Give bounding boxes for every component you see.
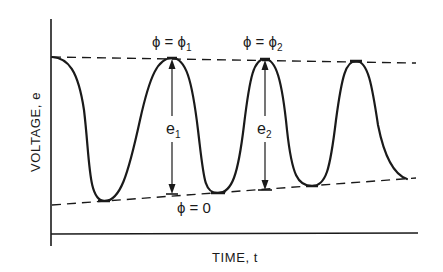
e2-label: e2 xyxy=(257,120,272,140)
e1-label: e1 xyxy=(166,120,181,140)
arrow-down-icon xyxy=(169,184,176,194)
phi-equals-phi2-label: ϕ = ϕ2 xyxy=(243,33,283,53)
voltage-waveform xyxy=(52,57,407,201)
arrow-up-icon xyxy=(169,59,176,69)
arrow-up-icon xyxy=(262,60,269,70)
e2-amplitude-marker: e2 xyxy=(257,60,272,190)
x-axis-label: TIME, t xyxy=(212,250,258,265)
phi-equals-phi1-label: ϕ = ϕ1 xyxy=(152,33,192,53)
y-axis-label: VOLTAGE, e xyxy=(28,92,43,172)
x-axis xyxy=(51,233,418,234)
phi-equals-zero-label: ϕ = 0 xyxy=(177,199,211,216)
waveform-diagram: VOLTAGE, e TIME, t e1 e2 ϕ = ϕ1 xyxy=(0,0,443,272)
e1-amplitude-marker: e1 xyxy=(166,59,181,194)
